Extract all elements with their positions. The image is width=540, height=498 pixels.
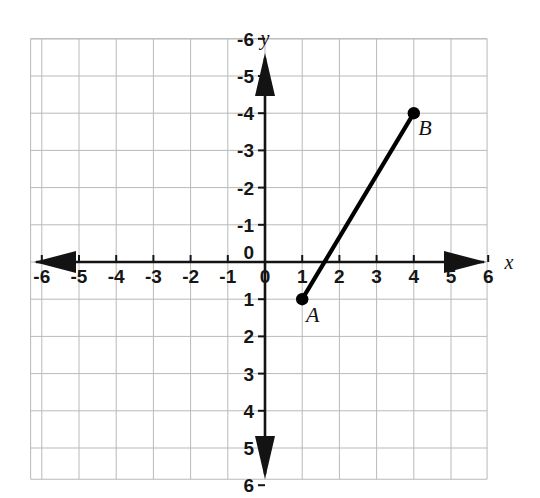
x-tick-label: -4 <box>108 266 125 287</box>
x-tick-label: -6 <box>33 266 50 287</box>
grid <box>31 39 487 479</box>
point-labels: AB <box>304 115 432 327</box>
y-tick-label: 1 <box>243 289 254 310</box>
y-axis-up-arrowhead <box>255 53 275 96</box>
x-tick-label: 2 <box>334 266 345 287</box>
x-axis-tick-labels: -6-5-4-3-2-10123456 <box>33 266 493 287</box>
x-tick-label: 6 <box>483 266 494 287</box>
coordinate-plane-figure: -6-5-4-3-2-10123456 654321-1-2-3-4-5-60 … <box>0 0 540 498</box>
line-segment-series <box>296 107 420 305</box>
line-segment <box>302 113 414 299</box>
y-tick-label: -4 <box>237 103 254 124</box>
x-tick-label: -2 <box>182 266 199 287</box>
x-tick-label: 0 <box>260 266 271 287</box>
point-label-b: B <box>418 115 431 140</box>
x-tick-label: -1 <box>219 266 236 287</box>
y-tick-label: -5 <box>237 66 254 87</box>
coordinate-plane-svg: -6-5-4-3-2-10123456 654321-1-2-3-4-5-60 … <box>0 0 540 498</box>
x-tick-label: 1 <box>297 266 308 287</box>
point-label-a: A <box>304 302 320 327</box>
x-axis-label: x <box>504 251 514 273</box>
y-tick-label: -2 <box>237 178 254 199</box>
y-tick-label: 6 <box>243 475 254 496</box>
y-tick-label: 2 <box>243 326 254 347</box>
y-tick-label: 5 <box>243 438 254 459</box>
x-tick-label: 4 <box>409 266 420 287</box>
y-tick-label: -3 <box>237 140 254 161</box>
y-axis-down-arrowhead <box>255 436 275 479</box>
x-tick-label: 3 <box>371 266 382 287</box>
x-tick-label: -5 <box>71 266 88 287</box>
y-tick-label: -6 <box>237 29 254 50</box>
x-tick-label: -3 <box>145 266 162 287</box>
y-tick-label: -1 <box>237 215 254 236</box>
x-tick-label: 5 <box>446 266 457 287</box>
y-axis-origin-label: 0 <box>243 242 254 263</box>
y-tick-label: 3 <box>243 364 254 385</box>
y-tick-label: 4 <box>243 401 254 422</box>
y-axis-label: y <box>259 27 270 50</box>
